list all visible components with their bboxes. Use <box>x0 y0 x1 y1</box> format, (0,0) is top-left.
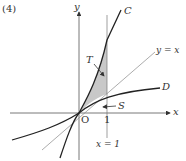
curve-c <box>60 10 121 158</box>
curve-c-label: C <box>124 6 132 16</box>
curve-d-label: D <box>162 82 170 92</box>
tick-label-1: 1 <box>104 115 110 125</box>
problem-number: (4) <box>2 4 16 14</box>
vertical-line-label: x = 1 <box>96 140 120 149</box>
identity-line-label: y = x <box>156 46 179 55</box>
shaded-region <box>79 40 107 113</box>
y-axis-label: y <box>74 2 80 12</box>
s-pointer-arrow <box>103 106 116 107</box>
diagram-canvas <box>0 0 186 161</box>
origin-label: O <box>81 115 89 125</box>
x-axis-label: x <box>173 107 179 117</box>
region-s-label: S <box>118 101 125 111</box>
region-t-label: T <box>86 55 93 65</box>
